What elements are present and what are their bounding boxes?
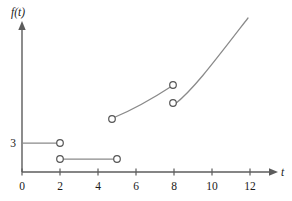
x-tick-label-12: 12 [244,180,256,192]
x-tick-label-8: 8 [171,180,177,192]
x-tick-label-4: 4 [95,180,101,192]
open-circle-t2-upper [57,140,64,147]
figure-root: 0 2 4 6 8 10 12 3 f(t) t [0,0,292,201]
x-tick-label-0: 0 [19,180,25,192]
axes-group [18,21,278,176]
x-tick-label-6: 6 [133,180,139,192]
y-tick-labels-group: 3 [10,137,16,149]
y-tick-label-3: 3 [10,137,16,149]
open-circle-t8-upper [170,82,177,89]
data-branches-group [22,18,248,159]
x-tick-label-2: 2 [57,180,63,192]
open-circle-t2-lower [57,156,64,163]
open-circle-t8-lower [170,100,177,107]
x-axis-arrowhead [269,168,278,175]
y-axis-arrowhead [18,21,25,30]
open-circle-markers-group [57,82,177,163]
y-axis-label: f(t) [11,6,25,19]
x-tick-labels-group: 0 2 4 6 8 10 12 [19,180,256,192]
open-circle-t5-upper [109,116,116,123]
piecewise-graph-svg: 0 2 4 6 8 10 12 3 f(t) t [0,0,292,201]
branch-3-rising-curve [113,86,172,118]
open-circle-t5-lower [114,156,121,163]
x-tick-label-10: 10 [206,180,218,192]
branch-4-exponential-curve [175,18,248,104]
x-axis-label: t [281,166,285,178]
